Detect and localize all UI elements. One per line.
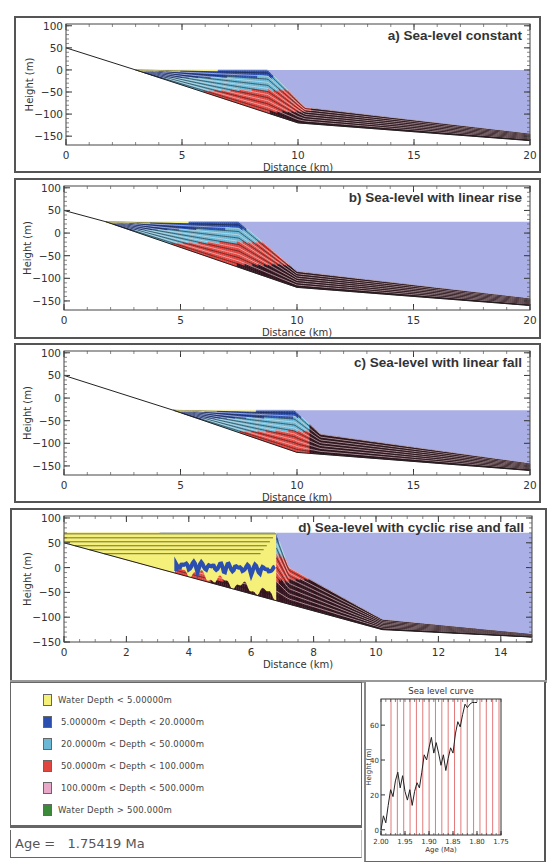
age-value: 1.75419 — [68, 836, 122, 851]
legend-item-medium: 20.0000m < Depth < 50.0000m — [43, 736, 204, 752]
x-tick-label: 0 — [63, 149, 70, 161]
x-tick-label: 5 — [179, 149, 186, 161]
plot-area — [64, 375, 530, 470]
y-tick-label: 100 — [43, 20, 63, 32]
depth-legend: Water Depth < 5.00000m 5.00000m < Depth … — [10, 682, 362, 828]
x-axis-label: Distance (km) — [262, 492, 332, 503]
plot-area — [64, 533, 532, 637]
x-tick-label: 20 — [523, 149, 536, 161]
swatch-icon — [43, 760, 52, 772]
y-tick-label: 0 — [54, 392, 61, 404]
y-tick-label: 50 — [48, 369, 61, 381]
legend-label: 5.00000m < Depth < 20.0000m — [61, 717, 204, 727]
y-tick-label: −50 — [39, 586, 61, 598]
legend-label: 20.0000m < Depth < 50.0000m — [61, 739, 204, 749]
curve-x-tick: 1.80 — [469, 838, 485, 846]
legend-item-shallow: 5.00000m < Depth < 20.0000m — [43, 714, 204, 730]
curve-axes-frame — [381, 699, 501, 835]
curve-x-tick: 1.90 — [421, 838, 437, 846]
curve-x-tick: 1.85 — [445, 838, 461, 846]
x-tick-label: 20 — [523, 479, 536, 491]
swatch-icon — [43, 804, 52, 816]
y-axis-label: Height (m) — [22, 552, 33, 606]
y-tick-label: 50 — [48, 204, 61, 216]
x-tick-label: 10 — [291, 149, 304, 161]
x-tick-label: 5 — [177, 479, 184, 491]
legend-item-deepest: Water Depth > 500.000m — [43, 802, 172, 818]
y-tick-label: 0 — [56, 64, 63, 76]
x-tick-label: 4 — [185, 646, 192, 658]
panel-title: a) Sea-level constant — [388, 28, 523, 43]
curve-x-tick: 1.75 — [493, 838, 509, 846]
x-tick-label: 15 — [407, 314, 420, 326]
swatch-icon — [43, 716, 52, 728]
y-tick-label: 50 — [48, 537, 61, 549]
x-axis-label: Distance (km) — [263, 162, 333, 173]
x-tick-label: 5 — [177, 314, 184, 326]
y-tick-label: −50 — [39, 415, 61, 427]
legend-item-very-shallow: Water Depth < 5.00000m — [43, 692, 172, 708]
y-axis-label: Height (m) — [22, 221, 33, 275]
panel-title: d) Sea-level with cyclic rise and fall — [298, 520, 524, 535]
x-tick-label: 15 — [407, 479, 420, 491]
plot-area — [66, 48, 530, 141]
legend-label: Water Depth < 5.00000m — [58, 695, 172, 705]
legend-item-deeper: 100.000m < Depth < 500.000m — [43, 780, 204, 796]
x-tick-label: 10 — [290, 479, 303, 491]
age-label: Age = — [15, 836, 55, 851]
legend-label: 100.000m < Depth < 500.000m — [61, 783, 204, 793]
curve-y-tick: 20 — [370, 792, 379, 800]
curve-x-tick: 1.95 — [397, 838, 413, 846]
legend-label: Water Depth > 500.000m — [58, 805, 172, 815]
x-tick-label: 14 — [494, 646, 508, 658]
x-tick-label: 0 — [61, 646, 68, 658]
y-tick-label: −150 — [32, 460, 61, 472]
plot-area — [64, 210, 530, 305]
panel-d-sea-level-cyclic: 100500−50−100−15002468101214Distance (km… — [10, 508, 547, 682]
legend-item-deep: 50.0000m < Depth < 100.000m — [43, 758, 204, 774]
y-tick-label: −100 — [32, 272, 61, 284]
swatch-icon — [43, 738, 52, 750]
y-axis-label: Height (m) — [24, 58, 35, 112]
age-readout: Age = 1.75419 Ma — [10, 830, 362, 858]
y-tick-label: 100 — [41, 182, 61, 194]
x-tick-label: 8 — [310, 646, 317, 658]
x-axis-label: Distance (km) — [263, 659, 333, 670]
y-tick-label: 50 — [50, 42, 63, 54]
panel-title: b) Sea-level with linear rise — [349, 190, 523, 205]
y-axis-label: Height (m) — [22, 386, 33, 440]
curve-y-tick: 0 — [375, 827, 379, 835]
sea-level-curve-chart: Sea level curve02040602.001.951.901.851.… — [366, 682, 544, 860]
legend-label: 50.0000m < Depth < 100.000m — [61, 761, 204, 771]
x-tick-label: 15 — [407, 149, 420, 161]
x-tick-label: 10 — [290, 314, 303, 326]
y-tick-label: −50 — [39, 250, 61, 262]
y-tick-label: 100 — [41, 347, 61, 359]
curve-x-tick: 2.00 — [373, 838, 389, 846]
y-tick-label: −150 — [32, 636, 61, 648]
y-tick-label: 0 — [54, 562, 61, 574]
y-tick-label: −100 — [32, 437, 61, 449]
x-tick-label: 20 — [523, 314, 536, 326]
x-tick-label: 10 — [369, 646, 382, 658]
y-tick-label: −100 — [32, 611, 61, 623]
y-tick-label: 0 — [54, 227, 61, 239]
swatch-icon — [43, 782, 52, 794]
panel-c-sea-level-linear-fall: 100500−50−100−15005101520Distance (km)He… — [14, 343, 541, 503]
panel-b-sea-level-linear-rise: 100500−50−100−15005101520Distance (km)He… — [14, 178, 541, 339]
panel-title: c) Sea-level with linear fall — [354, 355, 522, 370]
age-unit: Ma — [125, 836, 144, 851]
cross-section-chart-b: 100500−50−100−15005101520Distance (km)He… — [16, 180, 543, 341]
curve-x-label: Age (Ma) — [425, 846, 457, 854]
sea-level-curve-panel: Sea level curve02040602.001.951.901.851.… — [364, 682, 546, 862]
panel-a-sea-level-constant: 100500−50−100−15005101520Distance (km)He… — [14, 16, 541, 173]
cross-section-chart-a: 100500−50−100−15005101520Distance (km)He… — [16, 18, 543, 175]
x-tick-label: 2 — [123, 646, 130, 658]
y-tick-label: 100 — [41, 512, 61, 524]
x-tick-label: 0 — [61, 479, 68, 491]
cross-section-chart-d: 100500−50−100−15002468101214Distance (km… — [12, 510, 549, 684]
x-tick-label: 6 — [248, 646, 255, 658]
x-tick-label: 0 — [61, 314, 68, 326]
cross-section-chart-c: 100500−50−100−15005101520Distance (km)He… — [16, 345, 543, 505]
x-tick-label: 12 — [432, 646, 445, 658]
